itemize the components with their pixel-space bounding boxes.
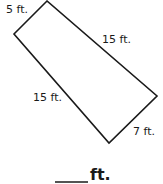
- side-label-bottom-right: 7 ft.: [133, 126, 155, 137]
- answer-unit-label: ft.: [90, 167, 111, 183]
- side-label-top-left: 5 ft.: [6, 4, 28, 15]
- side-label-top-right: 15 ft.: [102, 34, 131, 45]
- quadrilateral-shape: [14, 1, 157, 143]
- quadrilateral-diagram: [0, 0, 163, 184]
- side-label-left-bottom: 15 ft.: [33, 92, 62, 103]
